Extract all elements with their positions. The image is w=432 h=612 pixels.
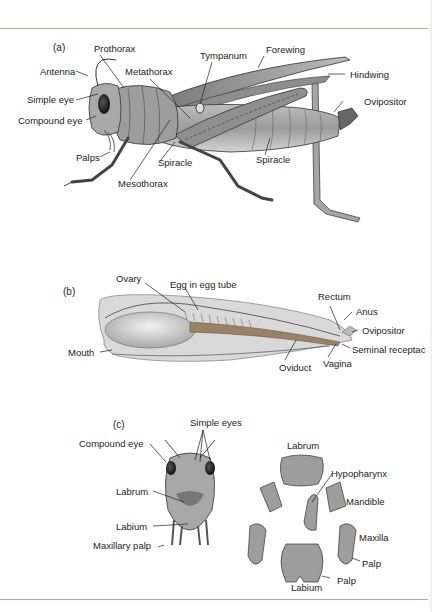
label-ovary: Ovary — [116, 273, 141, 284]
label-spiracle-2: Spiracle — [256, 154, 290, 165]
label-simple-eyes: Simple eyes — [190, 417, 242, 428]
label-mouth: Mouth — [68, 347, 94, 358]
label-ovipositor-b: Ovipositor — [362, 325, 405, 336]
label-compound-eye-a: Compound eye — [18, 115, 82, 126]
panel-label-b: (b) — [63, 286, 75, 297]
label-seminal-receptacle: Seminal receptac — [352, 344, 425, 355]
label-palp-1: Palp — [362, 558, 381, 569]
label-spiracle-1: Spiracle — [158, 157, 192, 168]
label-labrum-head: Labrum — [116, 486, 148, 497]
panel-label-c: (c) — [113, 419, 125, 430]
label-oviduct: Oviduct — [279, 362, 311, 373]
label-rectum: Rectum — [318, 291, 351, 302]
label-anus: Anus — [356, 306, 378, 317]
grasshopper-head-frontal — [165, 440, 215, 545]
label-mandible: Mandible — [346, 496, 385, 507]
grasshopper-lateral — [64, 57, 360, 222]
label-prothorax: Prothorax — [94, 43, 135, 54]
label-antenna: Antenna — [40, 66, 75, 77]
label-egg-in-egg-tube: Egg in egg tube — [170, 279, 237, 290]
label-palps: Palps — [76, 152, 100, 163]
label-maxillary-palp: Maxillary palp — [93, 540, 151, 551]
label-forewing: Forewing — [266, 44, 305, 55]
label-mesothorax: Mesothorax — [118, 178, 168, 189]
label-compound-eye-c: Compound eye — [79, 438, 143, 449]
label-palp-2: Palp — [337, 575, 356, 586]
label-maxilla: Maxilla — [359, 532, 389, 543]
label-vagina: Vagina — [323, 358, 352, 369]
label-labium: Labium — [291, 582, 322, 593]
label-labium-head: Labium — [116, 521, 147, 532]
label-labrum: Labrum — [287, 440, 319, 451]
label-simple-eye: Simple eye — [27, 94, 74, 105]
label-hypopharynx: Hypopharynx — [331, 468, 387, 479]
label-ovipositor-a: Ovipositor — [364, 96, 407, 107]
panel-label-a: (a) — [53, 42, 65, 53]
label-tympanum: Tympanum — [200, 50, 247, 61]
label-metathorax: Metathorax — [125, 66, 173, 77]
label-hindwing: Hindwing — [350, 69, 389, 80]
grasshopper-internal — [99, 295, 356, 362]
